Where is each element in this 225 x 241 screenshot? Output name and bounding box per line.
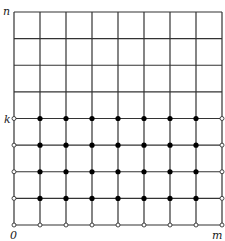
label-m: m bbox=[212, 229, 222, 241]
filled-dot bbox=[63, 143, 68, 148]
filled-dot bbox=[193, 116, 198, 121]
open-dot bbox=[116, 223, 120, 227]
open-dot bbox=[38, 223, 42, 227]
filled-dot bbox=[89, 143, 94, 148]
filled-dot bbox=[63, 196, 68, 201]
open-dot bbox=[12, 170, 16, 174]
filled-dot bbox=[141, 143, 146, 148]
open-dot bbox=[64, 223, 68, 227]
lattice-diagram: nk0m bbox=[0, 0, 225, 241]
open-dot bbox=[220, 196, 224, 200]
open-dot bbox=[220, 223, 224, 227]
open-dot bbox=[12, 117, 16, 121]
filled-dot bbox=[37, 196, 42, 201]
filled-dot bbox=[89, 169, 94, 174]
filled-dot bbox=[167, 196, 172, 201]
open-dot bbox=[12, 196, 16, 200]
open-dot bbox=[194, 223, 198, 227]
filled-dot bbox=[115, 196, 120, 201]
filled-dot bbox=[141, 169, 146, 174]
filled-dot bbox=[115, 116, 120, 121]
filled-dot bbox=[37, 116, 42, 121]
open-dot bbox=[220, 117, 224, 121]
filled-dot bbox=[167, 169, 172, 174]
filled-dot bbox=[141, 196, 146, 201]
filled-dot bbox=[115, 169, 120, 174]
label-n: n bbox=[3, 5, 10, 18]
filled-dot bbox=[89, 116, 94, 121]
filled-dot bbox=[63, 116, 68, 121]
filled-dot bbox=[167, 143, 172, 148]
filled-dot bbox=[37, 169, 42, 174]
open-dot bbox=[90, 223, 94, 227]
open-dot bbox=[220, 143, 224, 147]
filled-dot bbox=[167, 116, 172, 121]
filled-dot bbox=[193, 169, 198, 174]
label-k: k bbox=[4, 113, 11, 126]
filled-dot bbox=[193, 196, 198, 201]
filled-dot bbox=[89, 196, 94, 201]
open-dot bbox=[142, 223, 146, 227]
filled-dot bbox=[193, 143, 198, 148]
filled-dot bbox=[37, 143, 42, 148]
open-dot bbox=[12, 143, 16, 147]
filled-dot bbox=[141, 116, 146, 121]
open-dot bbox=[168, 223, 172, 227]
filled-dot bbox=[63, 169, 68, 174]
open-dot bbox=[220, 170, 224, 174]
filled-dot bbox=[115, 143, 120, 148]
open-dot bbox=[12, 223, 16, 227]
label-origin: 0 bbox=[10, 229, 17, 241]
